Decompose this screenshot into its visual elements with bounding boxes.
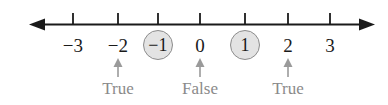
tick-label-minus-2: −2: [108, 36, 129, 55]
annotation-arrow-up-icon: [196, 58, 205, 77]
annotation-arrows: [114, 58, 293, 77]
annotation-arrow-up-icon: [114, 58, 123, 77]
right-arrow-head-icon: [359, 19, 375, 31]
annotation-label-true-two: True: [272, 80, 304, 97]
number-line-figure: −3 −2 −1 0 1 2 3 True False True: [0, 0, 388, 105]
tick-marks: [73, 13, 330, 25]
tick-label-1-highlighted: 1: [230, 30, 260, 60]
annotation-label-true-minus-2: True: [102, 80, 134, 97]
tick-label-minus-3: −3: [63, 36, 84, 55]
tick-label-0: 0: [195, 36, 205, 55]
left-arrow-head-icon: [29, 19, 45, 31]
tick-label-3: 3: [325, 36, 335, 55]
tick-label-2: 2: [283, 36, 293, 55]
tick-label-minus-1-highlighted: −1: [143, 30, 173, 60]
annotation-label-false-zero: False: [182, 80, 218, 97]
annotation-arrow-up-icon: [284, 58, 293, 77]
